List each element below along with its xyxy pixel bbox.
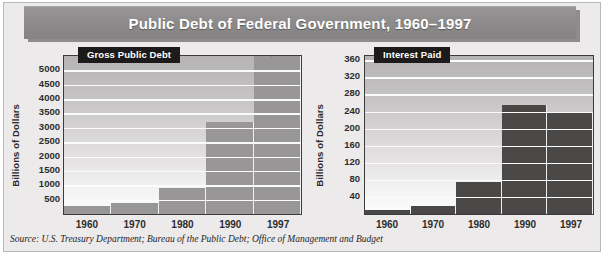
y-tick-label: 500 [44, 194, 60, 204]
x-tick-label: 1970 [410, 219, 456, 230]
bar-cell [206, 56, 253, 214]
x-tick-label: 1990 [502, 219, 548, 230]
gridline [365, 112, 593, 114]
bar [254, 56, 301, 214]
bar-cell [111, 56, 158, 214]
page-title: Public Debt of Federal Government, 1960–… [128, 15, 471, 32]
y-tick-label: 1000 [39, 180, 60, 190]
bar-group-right [365, 56, 593, 214]
bar-cell [159, 56, 206, 214]
y-tick-label: 5000 [39, 65, 60, 75]
bar [111, 203, 158, 214]
y-axis-title-left: Billions of Dollars [10, 104, 21, 187]
bar [365, 210, 411, 214]
y-tick-label: 4000 [39, 93, 60, 103]
x-tick-label: 1960 [364, 219, 410, 230]
gridline [64, 157, 301, 159]
y-tick-label: 240 [344, 106, 360, 116]
series-tag-right: Interest Paid [374, 47, 450, 63]
y-tick-label: 200 [344, 123, 360, 133]
bar-group-left: 5,499 [64, 56, 301, 214]
y-tick-label: 40 [349, 191, 360, 201]
y-axis-title-right: Billions of Dollars [314, 104, 325, 187]
bar [411, 206, 457, 214]
bar-cell: 5,499 [254, 56, 301, 214]
y-tick-label: 2500 [39, 136, 60, 146]
gridline [64, 185, 301, 187]
y-axis-ticks-left: 500045004000350030002500200015001000500 [26, 48, 60, 216]
y-tick-label: 3500 [39, 108, 60, 118]
gridline [365, 77, 593, 79]
y-tick-label: 1500 [39, 165, 60, 175]
gridline [64, 128, 301, 130]
y-tick-label: 2000 [39, 151, 60, 161]
source-note: Source: U.S. Treasury Department; Bureau… [10, 234, 383, 244]
x-tick-label: 1970 [111, 219, 159, 230]
bar-cell [547, 56, 593, 214]
gridline [365, 94, 593, 96]
x-tick-label: 1980 [159, 219, 207, 230]
y-tick-label: 80 [349, 174, 360, 184]
x-tick-label: 1997 [254, 219, 302, 230]
bar-cell [64, 56, 111, 214]
public-debt-figure: Public Debt of Federal Government, 1960–… [0, 0, 606, 262]
y-tick-label: 4500 [39, 79, 60, 89]
gridline [64, 70, 301, 72]
plot-area-right [364, 55, 594, 215]
y-tick-label: 3000 [39, 122, 60, 132]
gridline [365, 197, 593, 199]
y-tick-label: 280 [344, 89, 360, 99]
y-axis-ticks-right: 3603202802402001601208040 [326, 48, 360, 216]
x-tick-label: 1997 [548, 219, 594, 230]
gridline [64, 200, 301, 202]
y-tick-label: 120 [344, 157, 360, 167]
bar-cell [365, 56, 411, 214]
gridline [64, 85, 301, 87]
title-banner: Public Debt of Federal Government, 1960–… [24, 6, 576, 39]
gridline [365, 129, 593, 131]
gridline [365, 146, 593, 148]
y-tick-label: 320 [344, 72, 360, 82]
gridline [64, 113, 301, 115]
bar [64, 206, 111, 214]
x-axis-labels-right: 19601970198019901997 [364, 219, 594, 230]
bar-cell [502, 56, 548, 214]
y-tick-label: 360 [344, 55, 360, 65]
bar-cell [411, 56, 457, 214]
gridline [365, 163, 593, 165]
gridline [365, 180, 593, 182]
plot-area-left: 5,499 [63, 55, 302, 215]
bar-value-label: 5,499 [254, 55, 301, 56]
bar-cell [456, 56, 502, 214]
x-tick-label: 1980 [456, 219, 502, 230]
x-axis-labels-left: 19601970198019901997 [63, 219, 302, 230]
series-tag-left: Gross Public Debt [78, 47, 180, 63]
x-tick-label: 1990 [206, 219, 254, 230]
gridline [64, 142, 301, 144]
gridline [64, 171, 301, 173]
gridline [64, 99, 301, 101]
x-tick-label: 1960 [63, 219, 111, 230]
y-tick-label: 160 [344, 140, 360, 150]
